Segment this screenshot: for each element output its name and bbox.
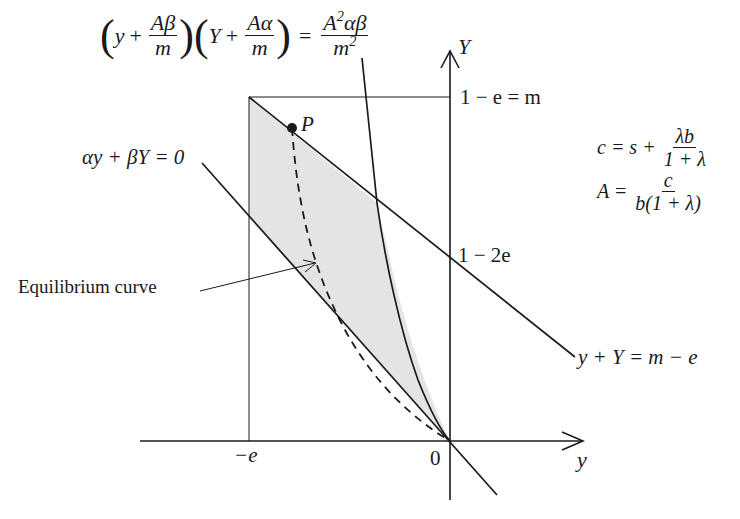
equals-sign: = [299,23,311,49]
a-def-numerator: c [662,170,675,192]
zero-line-label: αy + βY = 0 [82,145,184,170]
frac-rhs: A2αβ m2 [321,12,368,59]
frac-a-alpha-m: Aα m [245,12,274,59]
c-def-fraction: λb 1 + λ [662,126,708,169]
var-y: y [115,23,125,49]
x-tick-neg-e: −e [234,443,258,468]
c-def-lhs: c = s + [597,136,656,159]
plus-1: + [129,23,141,49]
rhs-denominator: m2 [331,36,358,59]
point-p-label: P [301,112,314,137]
paren-close-1: ) [179,14,194,58]
y-tick-m: 1 − e = m [460,85,541,110]
frac-a-beta-m: Aβ m [149,12,177,59]
diagram-graphics [0,0,740,519]
equilibrium-curve-label: Equilibrium curve [18,276,157,298]
hyperbola-equation: ( y + Aβ m ) ( Y + Aα m ) = A2αβ m2 [100,12,370,59]
paren-close-2: ) [276,14,291,58]
shaded-region [249,97,450,441]
frac-1-denominator: m [153,36,173,59]
frac-2-numerator: Aα [245,12,274,36]
y-tick-1-minus-2e: 1 − 2e [458,243,511,268]
c-def-denominator: 1 + λ [662,148,708,169]
a-def-fraction: c b(1 + λ) [633,170,702,213]
c-definition: c = s + λb 1 + λ [597,126,710,169]
budget-line-label: y + Y = m − e [578,345,698,370]
c-def-numerator: λb [673,126,696,148]
frac-1-numerator: Aβ [149,12,177,36]
rhs-numerator: A2αβ [321,12,368,36]
x-axis-label: y [577,447,587,473]
equilibrium-pointer [200,263,315,291]
paren-open-1: ( [100,14,115,58]
a-definition: A = c b(1 + λ) [597,170,705,213]
paren-open-2: ( [194,14,209,58]
plus-2: + [226,23,238,49]
y-axis-label: Y [458,34,470,60]
a-def-lhs: A = [597,180,627,203]
a-def-denominator: b(1 + λ) [633,192,702,213]
var-Y: Y [209,23,221,49]
frac-2-denominator: m [250,36,270,59]
origin-label: 0 [430,446,441,471]
point-p-marker [287,123,297,133]
diagram-canvas: ( y + Aβ m ) ( Y + Aα m ) = A2αβ m2 Y 1 … [0,0,740,519]
